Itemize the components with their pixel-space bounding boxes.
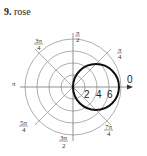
svg-text:2: 2 <box>62 142 66 150</box>
angle-label-pi-over-2: π 2 <box>75 29 80 44</box>
angle-label-7pi-over-4: 7π 4 <box>104 123 113 138</box>
ring-label-4: 4 <box>96 89 102 100</box>
angle-label-5pi-over-4: 5π 4 <box>19 119 28 134</box>
polar-graph: 2 4 6 0 π π 2 π 4 3π 4 5π 4 3π 2 7π 4 <box>0 0 147 156</box>
angle-label-pi: π <box>12 80 16 88</box>
svg-text:4: 4 <box>37 44 41 52</box>
svg-text:2: 2 <box>76 36 80 44</box>
svg-text:4: 4 <box>22 126 26 134</box>
angle-label-pi-over-4: π 4 <box>117 46 122 61</box>
ring-label-2: 2 <box>84 89 90 100</box>
svg-text:4: 4 <box>107 130 111 138</box>
svg-text:4: 4 <box>118 53 122 61</box>
pole <box>72 86 75 89</box>
angle-label-3pi-over-2: 3π 2 <box>59 134 68 150</box>
polar-axis-arrow-icon <box>127 85 133 90</box>
ring-label-6: 6 <box>107 89 113 100</box>
angle-label-0: 0 <box>127 74 133 85</box>
